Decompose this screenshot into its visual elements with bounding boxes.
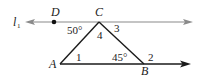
line-l1 xyxy=(25,19,193,25)
angle-dca-label: 50° xyxy=(67,24,82,36)
point-d-label: D xyxy=(50,5,60,19)
angle-1-label: 1 xyxy=(76,51,82,63)
line-l1-label-subscript: 1 xyxy=(17,22,21,30)
point-c-label: C xyxy=(95,5,104,19)
point-d-dot xyxy=(52,20,57,25)
angle-3-label: 3 xyxy=(114,22,120,34)
angle-4-label: 4 xyxy=(97,29,103,41)
angle-2-label: 2 xyxy=(148,51,154,63)
geometry-diagram: l 1 D C A B 50° 4 3 1 45° 2 xyxy=(0,0,198,77)
point-a-label: A xyxy=(48,57,57,71)
angle-abc-label: 45° xyxy=(112,51,127,63)
point-b-label: B xyxy=(141,64,149,77)
